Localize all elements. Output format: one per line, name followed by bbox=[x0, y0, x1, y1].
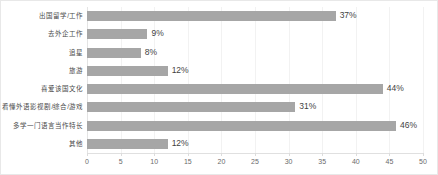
bar-row[interactable]: 44% bbox=[87, 80, 423, 98]
x-tick-mark bbox=[87, 153, 88, 156]
category-label: 看懂外语影视剧/综合/游戏 bbox=[1, 98, 83, 116]
bar-row[interactable]: 12% bbox=[87, 62, 423, 80]
category-label: 旅游 bbox=[1, 62, 83, 80]
bar[interactable] bbox=[87, 102, 295, 112]
bar-row[interactable]: 37% bbox=[87, 7, 423, 25]
x-axis: 05101520253035404550 bbox=[87, 153, 423, 173]
x-tick-label: 5 bbox=[119, 157, 123, 167]
x-tick-label: 10 bbox=[150, 157, 158, 167]
bar[interactable] bbox=[87, 48, 141, 58]
category-label: 多学一门语言当作特长 bbox=[1, 117, 83, 135]
bar[interactable] bbox=[87, 139, 168, 149]
x-tick-mark bbox=[322, 153, 323, 156]
bar-value-label: 46% bbox=[400, 119, 417, 132]
x-tick-mark bbox=[423, 153, 424, 156]
bar-row[interactable]: 9% bbox=[87, 25, 423, 43]
x-tick-mark bbox=[154, 153, 155, 156]
category-label: 其他 bbox=[1, 135, 83, 153]
category-label: 出国留学/工作 bbox=[1, 7, 83, 25]
category-axis: 出国留学/工作去外企工作追星旅游喜爱该国文化看懂外语影视剧/综合/游戏多学一门语… bbox=[1, 7, 83, 153]
x-tick-label: 35 bbox=[318, 157, 326, 167]
bar[interactable] bbox=[87, 121, 396, 131]
x-tick-label: 15 bbox=[184, 157, 192, 167]
bar-value-label: 37% bbox=[340, 9, 357, 22]
bar[interactable] bbox=[87, 11, 336, 21]
x-tick-label: 30 bbox=[285, 157, 293, 167]
bar-value-label: 12% bbox=[172, 137, 189, 150]
category-label: 追星 bbox=[1, 44, 83, 62]
bar-value-label: 44% bbox=[387, 82, 404, 95]
x-tick-mark bbox=[356, 153, 357, 156]
x-tick-mark bbox=[289, 153, 290, 156]
x-tick-mark bbox=[188, 153, 189, 156]
bar[interactable] bbox=[87, 84, 383, 94]
x-tick-label: 45 bbox=[385, 157, 393, 167]
category-label: 去外企工作 bbox=[1, 25, 83, 43]
x-tick-label: 40 bbox=[352, 157, 360, 167]
bar-value-label: 12% bbox=[172, 64, 189, 77]
x-tick-label: 50 bbox=[419, 157, 427, 167]
category-label: 喜爱该国文化 bbox=[1, 80, 83, 98]
bar-row[interactable]: 12% bbox=[87, 135, 423, 153]
plot-area: 37%9%8%12%44%31%46%12% bbox=[87, 7, 423, 153]
bar-chart: 出国留学/工作去外企工作追星旅游喜爱该国文化看懂外语影视剧/综合/游戏多学一门语… bbox=[0, 0, 438, 175]
bar[interactable] bbox=[87, 29, 147, 39]
bar-row[interactable]: 46% bbox=[87, 117, 423, 135]
bar-rows: 37%9%8%12%44%31%46%12% bbox=[87, 7, 423, 153]
bar[interactable] bbox=[87, 66, 168, 76]
x-tick-mark bbox=[221, 153, 222, 156]
bar-row[interactable]: 31% bbox=[87, 98, 423, 116]
x-tick-label: 20 bbox=[217, 157, 225, 167]
bar-value-label: 9% bbox=[151, 27, 163, 40]
x-tick-mark bbox=[389, 153, 390, 156]
x-tick-label: 25 bbox=[251, 157, 259, 167]
x-tick-mark bbox=[121, 153, 122, 156]
bar-value-label: 31% bbox=[299, 100, 316, 113]
gridline bbox=[423, 7, 424, 153]
x-tick-mark bbox=[255, 153, 256, 156]
x-tick-label: 0 bbox=[85, 157, 89, 167]
bar-value-label: 8% bbox=[145, 46, 157, 59]
bar-row[interactable]: 8% bbox=[87, 44, 423, 62]
